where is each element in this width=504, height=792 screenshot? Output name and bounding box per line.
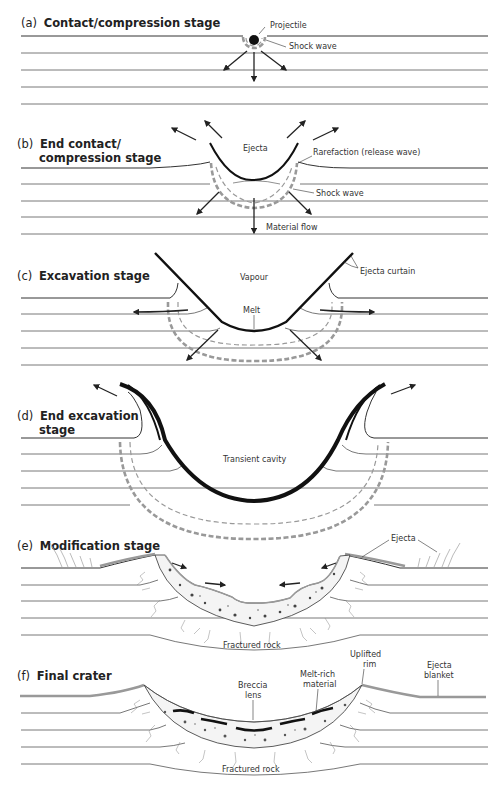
label-shock-wave-b: Shock wave <box>316 189 364 198</box>
panel-b-title-2: compression stage <box>39 151 161 165</box>
svg-text:(f) Final crater: (f) Final crater <box>17 669 112 683</box>
label-melt: Melt <box>243 306 260 315</box>
panel-c-title: Excavation stage <box>39 269 150 283</box>
panel-b-letter: (b) <box>17 137 33 151</box>
panel-b-title-1: End contact/ <box>40 137 122 151</box>
label-breccia-1: Breccia <box>238 681 268 690</box>
svg-text:(a) Contact/compression: (a) Contact/compression stage <box>21 16 220 30</box>
panel-c-layers <box>21 283 488 365</box>
label-uplifted-rim-2: rim <box>363 660 377 669</box>
panel-a-title: Contact/compression stage <box>44 16 221 30</box>
panel-c-excavation: (c) Excavation stage Vapour Ejecta curta… <box>17 253 488 365</box>
label-ejecta-blanket-1: Ejecta <box>427 661 452 670</box>
panel-d-end-excavation: (d) End excavation stage Transient cavit… <box>17 384 488 539</box>
svg-text:(d) End excavation: (d) End excavation <box>17 409 139 423</box>
panel-e-modification: (e) Modification stage <box>17 534 488 650</box>
label-melt-rich-2: material <box>303 680 336 689</box>
label-fractured-rock-e: Fractured rock <box>223 641 281 650</box>
panel-f-title: Final crater <box>37 669 112 683</box>
impact-cratering-diagram: (a) Contact/compression stage Projectile… <box>0 0 504 792</box>
svg-text:(e) Modification stage: (e) Modification stage <box>17 539 160 553</box>
panel-b-end-contact-compression: (b) End contact/ compression stage Eject… <box>17 121 488 234</box>
label-melt-rich-1: Melt-rich <box>300 670 335 679</box>
label-fractured-rock-f: Fractured rock <box>222 765 280 774</box>
svg-text:(c) Excavation stage: (c) Excavation stage <box>17 269 150 283</box>
label-material-flow: Material flow <box>266 223 318 232</box>
panel-d-crater-wall <box>120 384 385 501</box>
label-projectile: Projectile <box>270 21 307 30</box>
label-uplifted-rim-1: Uplifted <box>350 650 381 659</box>
panel-d-letter: (d) <box>17 409 33 423</box>
panel-e-breccia <box>155 555 350 626</box>
label-breccia-2: lens <box>245 691 261 700</box>
panel-e-letter: (e) <box>17 539 33 553</box>
arrow-down-left <box>224 51 247 70</box>
label-rarefaction: Rarefaction (release wave) <box>313 148 420 157</box>
panel-d-title-2: stage <box>39 423 75 437</box>
panel-f-final-crater: (f) Final crater <box>17 650 488 775</box>
panel-a-contact-compression: (a) Contact/compression stage Projectile… <box>21 16 488 104</box>
svg-text:(b) End contact/: (b) End contact/ <box>17 137 122 151</box>
panel-c-letter: (c) <box>17 269 32 283</box>
projectile-icon <box>249 35 259 45</box>
label-ejecta-curtain: Ejecta curtain <box>360 267 415 276</box>
panel-f-letter: (f) <box>17 669 30 683</box>
label-transient-cavity: Transient cavity <box>222 455 286 464</box>
panel-e-title: Modification stage <box>40 539 160 553</box>
label-ejecta-blanket-2: blanket <box>424 671 454 680</box>
label-ejecta: Ejecta <box>243 144 268 153</box>
panel-d-title-1: End excavation <box>40 409 139 423</box>
arrow-down-right <box>261 51 286 70</box>
label-vapour: Vapour <box>240 273 269 282</box>
label-shock-wave: Shock wave <box>289 42 337 51</box>
panel-a-letter: (a) <box>21 16 37 30</box>
label-ejecta-e: Ejecta <box>391 534 416 543</box>
